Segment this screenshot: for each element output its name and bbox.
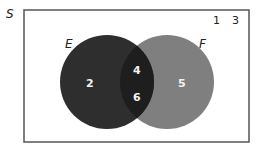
universe-label: S [6,7,14,21]
intersection-element-1: 4 [133,64,141,77]
venn-diagram-canvas: S 1 3 E F 2 4 6 5 [0,0,271,154]
set-e-only-element: 2 [86,77,94,90]
set-e-label: E [65,37,73,51]
set-f-only-element: 5 [178,77,186,90]
venn-diagram: S 1 3 E F 2 4 6 5 [0,0,271,154]
outside-element-1: 1 [213,14,220,27]
intersection-element-2: 6 [133,91,141,104]
set-f-label: F [199,37,207,51]
outside-element-2: 3 [232,14,239,27]
